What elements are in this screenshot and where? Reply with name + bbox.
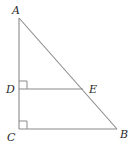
point-label-b: B bbox=[119, 128, 128, 141]
geometry-diagram: A D E C B bbox=[0, 0, 130, 146]
right-angle-marker-c bbox=[19, 121, 27, 129]
segment-ab bbox=[19, 18, 117, 129]
point-label-c: C bbox=[7, 131, 16, 144]
point-label-e: E bbox=[88, 83, 97, 96]
right-angle-marker-d bbox=[19, 81, 27, 89]
point-label-a: A bbox=[11, 4, 20, 17]
point-label-d: D bbox=[5, 83, 15, 96]
